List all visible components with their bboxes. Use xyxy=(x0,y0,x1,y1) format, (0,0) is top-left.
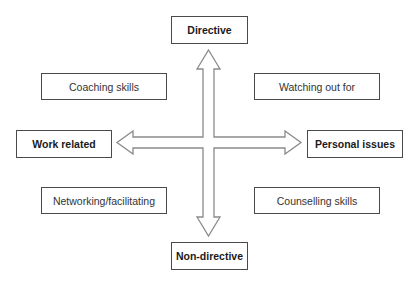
coaching-quadrant-diagram: Directive Coaching skills Watching out f… xyxy=(0,0,414,281)
quadrant-counselling-skills: Counselling skills xyxy=(254,187,380,214)
quadrant-networking-facilitating: Networking/facilitating xyxy=(41,187,167,214)
quadrant-coaching-skills: Coaching skills xyxy=(41,73,167,100)
axis-label-directive: Directive xyxy=(171,16,248,44)
axis-label-non-directive: Non-directive xyxy=(171,242,248,270)
axis-label-personal-issues: Personal issues xyxy=(307,130,403,158)
quadrant-watching-out-for: Watching out for xyxy=(254,73,380,100)
axis-label-work-related: Work related xyxy=(16,130,112,158)
